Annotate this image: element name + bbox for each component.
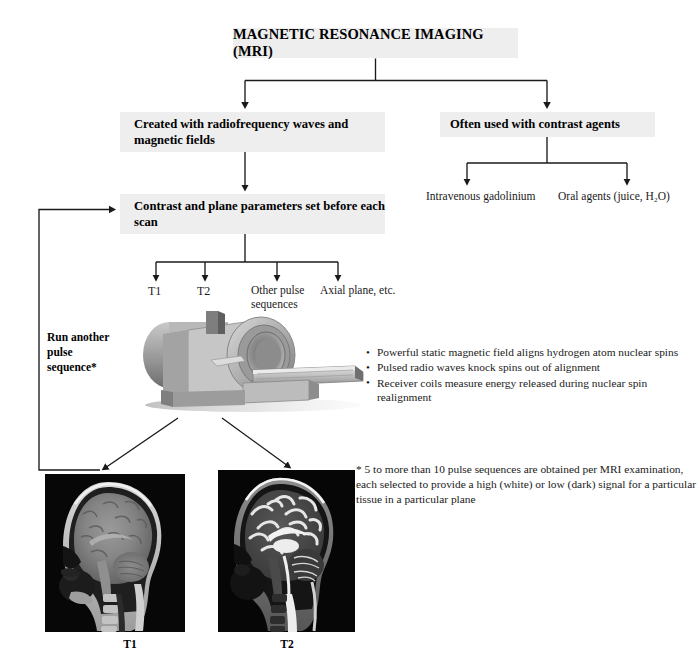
label-intravenous-gadolinium: Intravenous gadolinium xyxy=(426,190,536,202)
branch-label-axial-plane: Axial plane, etc. xyxy=(320,284,395,296)
label-run-another-pulse-sequence: Run another pulse sequence* xyxy=(47,330,117,375)
node-created-with-text: Created with radiofrequency waves and ma… xyxy=(134,116,385,148)
branch-label-t2: T2 xyxy=(197,284,210,299)
list-item: Pulsed radio waves knock spins out of al… xyxy=(366,360,696,375)
footnote-pulse-sequences: * 5 to more than 10 pulse sequences are … xyxy=(356,462,696,507)
page-title: MAGNETIC RESONANCE IMAGING (MRI) xyxy=(233,28,518,58)
list-item: Powerful static magnetic field aligns hy… xyxy=(366,345,696,360)
node-created-with: Created with radiofrequency waves and ma… xyxy=(120,112,385,152)
mri-scanner-icon xyxy=(133,308,368,413)
label-oral-agents: Oral agents (juice, H₂O) xyxy=(558,190,670,202)
caption-scan-t1: T1 xyxy=(110,638,150,650)
diagram-canvas: MAGNETIC RESONANCE IMAGING (MRI) Created… xyxy=(0,0,699,672)
node-contrast-plane-parameters-text: Contrast and plane parameters set before… xyxy=(134,198,385,230)
brain-mri-t2-sagittal-image xyxy=(218,470,355,632)
branch-label-t1: T1 xyxy=(148,284,161,299)
node-contrast-plane-parameters: Contrast and plane parameters set before… xyxy=(120,194,385,234)
brain-mri-t1-sagittal-image xyxy=(45,474,185,632)
node-contrast-agents: Often used with contrast agents xyxy=(440,112,655,137)
page-title-text: MAGNETIC RESONANCE IMAGING (MRI) xyxy=(233,26,518,60)
caption-scan-t2: T2 xyxy=(267,638,307,650)
node-contrast-agents-text: Often used with contrast agents xyxy=(450,117,620,132)
list-item: Receiver coils measure energy released d… xyxy=(366,376,696,406)
mri-physics-bullet-list: Powerful static magnetic field aligns hy… xyxy=(366,345,696,406)
